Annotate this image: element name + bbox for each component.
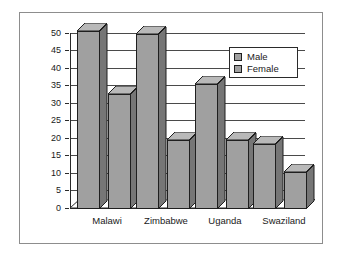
- y-axis-line: [70, 33, 71, 209]
- x-category-label: Uganda: [195, 216, 255, 226]
- bar-front-face: [136, 34, 159, 209]
- bar-front-face: [284, 172, 307, 209]
- y-tick-label: 50: [39, 29, 61, 38]
- bar-zimbabwe-female: [167, 132, 190, 209]
- bar-malawi-male: [77, 23, 100, 209]
- bar-front-face: [77, 31, 100, 209]
- chart-legend: Male Female: [229, 47, 298, 78]
- legend-item-male: Male: [234, 51, 291, 63]
- bar-front-face: [195, 84, 218, 209]
- y-tick-label: 5: [39, 186, 61, 195]
- bar-zimbabwe-male: [136, 26, 159, 209]
- x-category-label: Zimbabwe: [133, 216, 199, 226]
- bar-front-face: [226, 140, 249, 209]
- y-tick-label: 20: [39, 134, 61, 143]
- bar-chart: 50 45 40 35 30 25 20 15 10 5 0: [20, 13, 324, 245]
- bar-front-face: [167, 140, 190, 209]
- chart-frame: 50 45 40 35 30 25 20 15 10 5 0: [19, 12, 323, 244]
- y-tick-label: 45: [39, 46, 61, 55]
- legend-swatch-male-icon: [234, 53, 242, 61]
- legend-swatch-female-icon: [234, 65, 242, 73]
- legend-label-male: Male: [247, 52, 268, 62]
- legend-label-female: Female: [247, 64, 279, 74]
- y-tick-label: 35: [39, 81, 61, 90]
- bar-side-face: [275, 137, 284, 209]
- bar-uganda-male: [195, 76, 218, 209]
- y-tick-label: 30: [39, 99, 61, 108]
- bar-swaziland-male: [253, 136, 276, 209]
- x-category-label: Swaziland: [251, 216, 317, 226]
- y-tick-label: 40: [39, 64, 61, 73]
- y-tick-label: 0: [39, 204, 61, 213]
- bar-side-face: [306, 165, 315, 209]
- bar-malawi-female: [108, 86, 131, 209]
- y-tick-label: 25: [39, 116, 61, 125]
- x-category-label: Malawi: [77, 216, 137, 226]
- bar-swaziland-female: [284, 164, 307, 209]
- bar-front-face: [253, 144, 276, 209]
- bar-side-face: [217, 77, 226, 209]
- bar-side-face: [158, 27, 167, 209]
- y-tick-label: 15: [39, 151, 61, 160]
- bar-front-face: [108, 94, 131, 209]
- bar-side-face: [99, 24, 108, 209]
- y-tick-label: 10: [39, 169, 61, 178]
- bar-uganda-female: [226, 132, 249, 209]
- legend-item-female: Female: [234, 63, 291, 75]
